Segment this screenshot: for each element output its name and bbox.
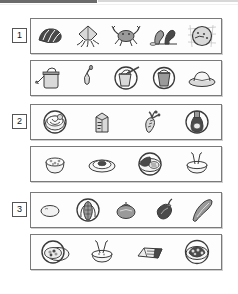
group-2-row-2-items [31, 147, 221, 181]
item-zucchini[interactable] [184, 193, 220, 227]
item-cereal-bowl[interactable] [37, 147, 73, 181]
sandwich-wrap-icon [135, 239, 165, 265]
item-trowel[interactable] [70, 61, 106, 95]
item-dinner-plate-circled[interactable] [132, 147, 168, 181]
item-fish-bowl-circled[interactable] [184, 19, 220, 53]
sun-hat-icon [187, 65, 217, 91]
salad-plate-icon [40, 239, 70, 265]
group-number-box-3: 3 [12, 202, 27, 217]
group-2-row-2 [30, 146, 222, 182]
item-seashell[interactable] [32, 19, 68, 53]
item-soup-bowl[interactable] [179, 147, 215, 181]
group-1-row-1 [30, 18, 222, 54]
item-sun-hat[interactable] [184, 61, 220, 95]
group-3-row-2 [30, 234, 222, 270]
item-crab[interactable] [108, 19, 144, 53]
group-1-row-2-items [31, 61, 221, 95]
seaweed-icon [149, 23, 179, 49]
group-1-row-1-items [31, 19, 221, 53]
carrot-icon [135, 109, 165, 135]
group-2-row-1 [30, 104, 222, 140]
group-number-box-1: 1 [12, 28, 27, 43]
item-veggie-plate-circled[interactable] [179, 235, 215, 269]
pancake-plate-icon [87, 151, 117, 177]
milk-carton-icon [87, 109, 117, 135]
item-tomato[interactable] [108, 193, 144, 227]
zucchini-icon [187, 197, 217, 223]
item-pancake-plate[interactable] [84, 147, 120, 181]
group-number-box-2: 2 [12, 114, 27, 129]
syrup-bottle-icon [182, 109, 212, 135]
veggie-plate-icon [182, 239, 212, 265]
soup-bowl-icon [182, 151, 212, 177]
trowel-icon [73, 65, 103, 91]
fish-bowl-icon [187, 23, 217, 49]
squid-icon [73, 23, 103, 49]
seashell-icon [35, 23, 65, 49]
soup-bowl-straws-icon [87, 239, 117, 265]
worksheet-sheet: 123 [0, 0, 238, 294]
item-watering-can[interactable] [32, 61, 68, 95]
item-corn-cob-circled[interactable] [70, 193, 106, 227]
item-potato[interactable] [32, 193, 68, 227]
corn-cob-icon [73, 197, 103, 223]
item-bucket-and-rake-circled[interactable] [108, 61, 144, 95]
bucket-and-rake-icon [111, 65, 141, 91]
group-2-row-1-items [31, 105, 221, 139]
group-3-row-1-items [31, 193, 221, 227]
watering-can-icon [35, 65, 65, 91]
item-sandwich-wrap[interactable] [132, 235, 168, 269]
tomato-icon [111, 197, 141, 223]
item-sand-bucket-circled[interactable] [146, 61, 182, 95]
item-eggplant[interactable] [146, 193, 182, 227]
crab-icon [111, 23, 141, 49]
item-milk-carton[interactable] [84, 105, 120, 139]
dinner-plate-icon [135, 151, 165, 177]
item-seaweed[interactable] [146, 19, 182, 53]
cereal-bowl-icon [40, 151, 70, 177]
item-mixing-bowl-circled[interactable] [37, 105, 73, 139]
item-salad-plate-circled[interactable] [37, 235, 73, 269]
item-squid[interactable] [70, 19, 106, 53]
sand-bucket-icon [149, 65, 179, 91]
group-1-row-2 [30, 60, 222, 96]
group-3-row-2-items [31, 235, 221, 269]
potato-icon [35, 197, 65, 223]
group-3-row-1 [30, 192, 222, 228]
item-syrup-bottle-circled[interactable] [179, 105, 215, 139]
item-soup-bowl-straws[interactable] [84, 235, 120, 269]
item-carrot[interactable] [132, 105, 168, 139]
eggplant-icon [149, 197, 179, 223]
mixing-bowl-icon [40, 109, 70, 135]
